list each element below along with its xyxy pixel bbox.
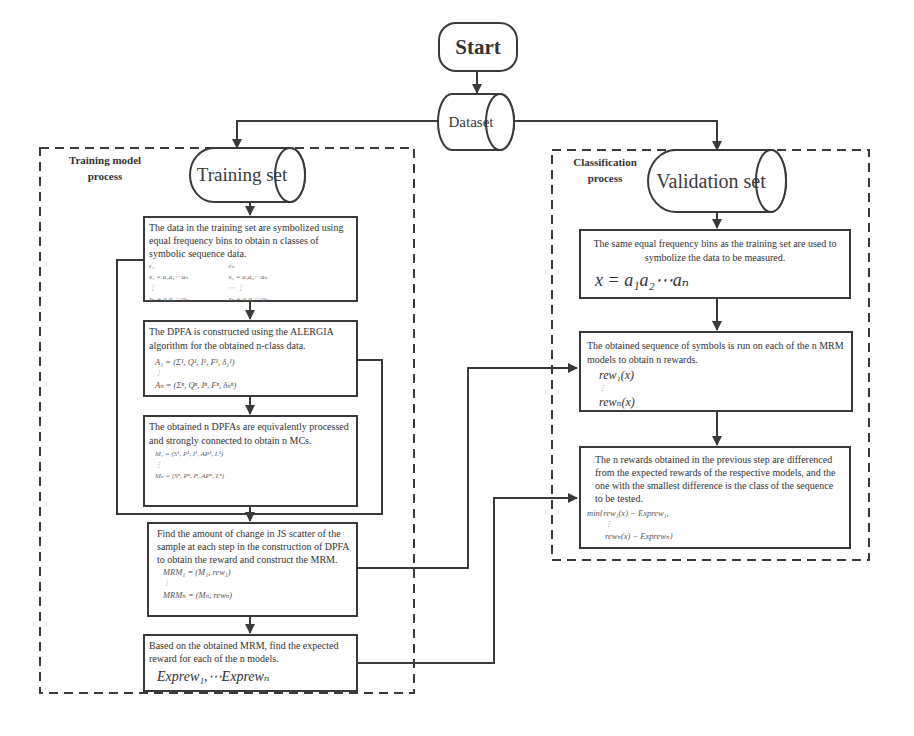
training-step-mrm: Find the amount of change in JS scatter …: [147, 522, 358, 617]
math-last: rewₙ(x) − Exprewₙ}: [587, 530, 843, 542]
math-first: rew₁(x): [599, 367, 845, 383]
math-last: rewₙ(x): [599, 394, 845, 410]
step-text: The n rewards obtained in the previous s…: [587, 453, 843, 505]
math-first: A₁ = (Σ¹, Q¹, I¹, F¹, δ₁¹): [155, 356, 352, 368]
training-step-symbolize: The data in the training set are symboli…: [143, 216, 358, 302]
training-step-expected-reward: Based on the obtained MRM, find the expe…: [143, 634, 358, 692]
math-dots: ⋮: [149, 283, 188, 294]
start-label: Start: [455, 35, 501, 60]
training-step-mc: The obtained n DPFAs are equivalently pr…: [143, 415, 358, 507]
math-dots: ⋮: [599, 383, 845, 394]
training-group-label-line1: Training model: [69, 154, 141, 166]
math-last: Mₙ = (Sⁿ, Pⁿ, Iⁿ, APⁿ, Lⁿ): [155, 471, 352, 482]
classification-group-label-line2: process: [588, 172, 623, 184]
math-dots: ⋯ ⋮: [228, 283, 267, 294]
classification-group-label-line1: Classification: [573, 156, 637, 168]
math-dots: ⋮: [155, 460, 352, 471]
step-text: The obtained sequence of symbols is run …: [587, 339, 845, 367]
step-text: Based on the obtained MRM, find the expe…: [149, 639, 352, 665]
start-terminal: Start: [438, 22, 518, 72]
training-set-label: Training set: [197, 164, 288, 186]
step-text: Find the amount of change in JS scatter …: [157, 527, 352, 566]
math-first: MRM₁ = (M₁, rew₁): [163, 566, 352, 578]
math-dots: ⋮: [163, 578, 352, 589]
math-row: x₁ = a₁a₂⋯aₙ: [149, 272, 188, 283]
step-text: The obtained n DPFAs are equivalently pr…: [149, 420, 352, 448]
classification-step-symbolize: The same equal frequency bins as the tra…: [579, 229, 851, 299]
dataset-cylinder: Dataset: [440, 94, 502, 150]
math-row: xₙ = a₁a₂⋯aₙ: [149, 294, 188, 305]
math-last: Aₙ = (Σⁿ, Qⁿ, Iⁿ, Fⁿ, δₙⁿ): [155, 379, 352, 391]
training-group-label-line2: process: [88, 170, 123, 182]
math-first: min{rew₁(x) − Exprew₁,: [587, 507, 843, 519]
validation-set-cylinder: Validation set: [650, 150, 772, 212]
validation-set-label: Validation set: [656, 170, 765, 193]
dataset-label: Dataset: [449, 114, 494, 131]
math-dots: ⋮: [155, 368, 352, 379]
step-text: The data in the training set are symboli…: [149, 221, 352, 260]
classification-step-run-models: The obtained sequence of symbols is run …: [579, 331, 853, 412]
math-last: MRMₙ = (Mₙ, rewₙ): [163, 589, 352, 601]
math-class-n: cₙ: [228, 261, 267, 272]
classification-step-min-difference: The n rewards obtained in the previous s…: [579, 446, 851, 549]
math-row: x₁ = a₁a₂⋯aₙ: [228, 272, 267, 283]
math-first: M₁ = (S¹, P¹, I¹, AP¹, L¹): [155, 449, 352, 460]
math-class-1: c₁: [149, 261, 188, 272]
math-row: xₙ = a₁a₂⋯aₙ: [228, 294, 267, 305]
math-formula: x = a₁a₂⋯aₙ: [591, 268, 839, 292]
step-text: The DPFA is constructed using the ALERGI…: [149, 325, 352, 353]
training-group-label: Training model process: [50, 152, 160, 184]
training-step-dpfa: The DPFA is constructed using the ALERGI…: [143, 320, 358, 397]
classification-group-label: Classification process: [560, 154, 650, 186]
math-dots: ⋮: [587, 519, 843, 530]
math-formula: Exprew₁,⋯Exprewₙ: [149, 669, 352, 685]
step-text: The same equal frequency bins as the tra…: [591, 237, 839, 265]
training-set-cylinder: Training set: [192, 148, 292, 202]
